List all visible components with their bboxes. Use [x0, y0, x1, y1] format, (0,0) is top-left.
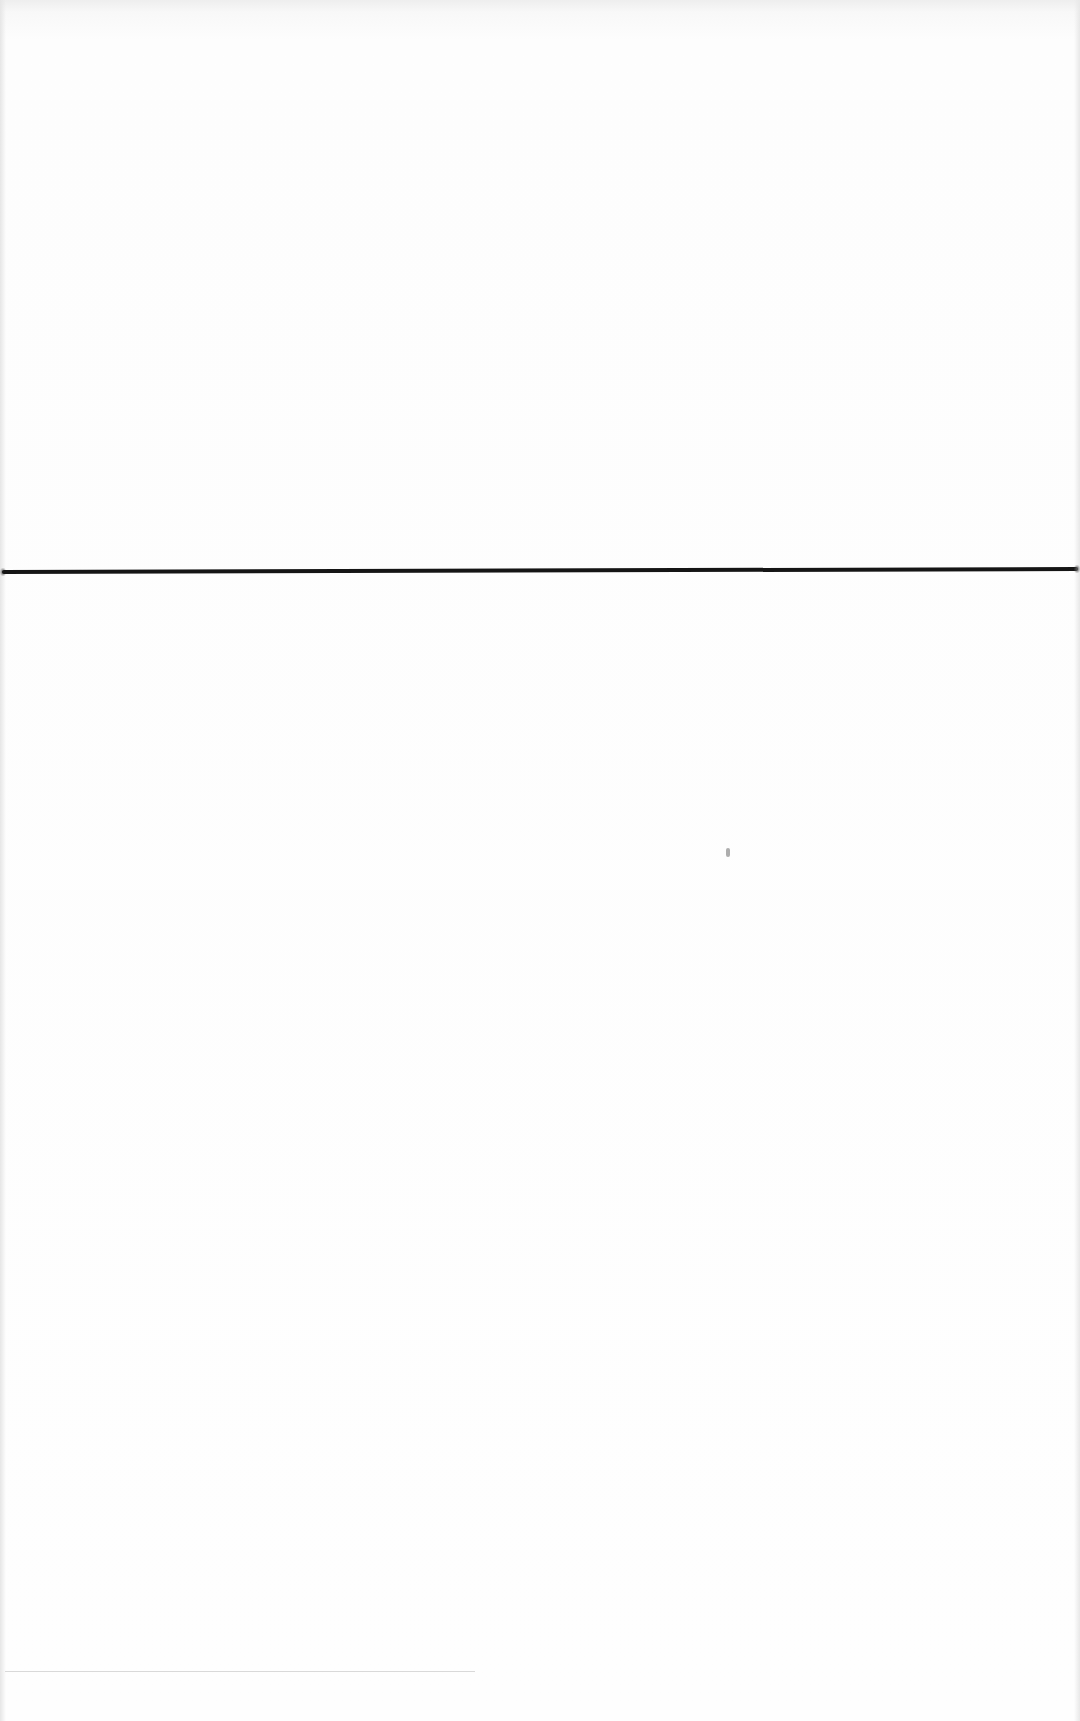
page-right-edge-shadow — [1074, 0, 1080, 1721]
page-left-edge-shadow — [0, 0, 6, 1721]
scanned-page — [0, 0, 1080, 1721]
horizontal-rule — [2, 567, 1078, 574]
faint-bottom-line — [5, 1671, 475, 1672]
rule-right-cap — [1074, 565, 1080, 573]
bleed-through-text — [300, 478, 900, 498]
scan-speck — [726, 848, 730, 857]
